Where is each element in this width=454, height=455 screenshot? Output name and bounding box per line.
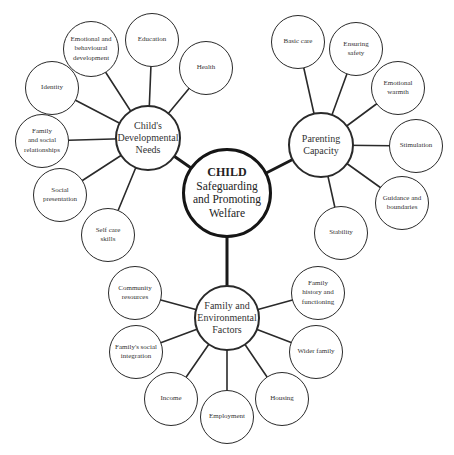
node-label: Social presentation — [43, 186, 77, 205]
node-housing: Housing — [255, 372, 309, 426]
node-label: Community resources — [118, 284, 151, 303]
node-income: Income — [144, 372, 198, 426]
node-basic-care: Basic care — [271, 15, 325, 69]
node-self-care-skills: Self care skills — [81, 208, 135, 262]
hub-developmental-needs: Child's Developmental Needs — [115, 105, 181, 171]
node-education: Education — [125, 13, 179, 67]
node-family-history-functioning: Family history and functioning — [291, 266, 345, 320]
core-subtitle: Safeguarding and Promoting Welfare — [193, 180, 261, 221]
hub-parenting-capacity: Parenting Capacity — [288, 112, 354, 178]
node-label: Self care skills — [96, 226, 121, 245]
core-node-child-safeguarding: CHILD Safeguarding and Promoting Welfare — [182, 148, 272, 238]
hub-family-environmental: Family and Environmental Factors — [194, 285, 260, 351]
node-label: Guidance and boundaries — [383, 194, 422, 213]
node-label: Emotional warmth — [383, 79, 412, 98]
node-label: Housing — [270, 394, 294, 404]
core-title: CHILD — [193, 166, 261, 180]
node-label: Income — [161, 394, 182, 404]
node-label: Wider family — [297, 347, 334, 357]
node-family-social-integration: Family's social integration — [109, 325, 163, 379]
node-ensuring-safety: Ensuring safety — [329, 22, 383, 76]
node-label: Family and social relationships — [24, 127, 60, 156]
node-label: Employment — [209, 412, 245, 422]
node-stability: Stability — [314, 206, 368, 260]
node-stimulation: Stimulation — [389, 119, 443, 173]
node-community-resources: Community resources — [108, 266, 162, 320]
node-social-presentation: Social presentation — [33, 168, 87, 222]
node-emotional-warmth: Emotional warmth — [371, 61, 425, 115]
node-wider-family: Wider family — [289, 325, 343, 379]
hub-developmental-label: Child's Developmental Needs — [117, 120, 178, 156]
node-label: Family history and functioning — [302, 279, 334, 308]
node-label: Family's social integration — [115, 343, 157, 362]
node-health: Health — [179, 41, 233, 95]
node-label: Emotional and behavioural development — [70, 35, 111, 64]
node-identity: Identity — [25, 61, 79, 115]
node-family-social-relationships: Family and social relationships — [15, 114, 69, 168]
hub-family-label: Family and Environmental Factors — [197, 300, 256, 336]
hub-parenting-label: Parenting Capacity — [302, 133, 340, 157]
node-label: Stability — [329, 228, 353, 238]
node-label: Basic care — [284, 37, 313, 47]
node-label: Identity — [41, 83, 63, 93]
node-label: Health — [197, 63, 216, 73]
node-label: Stimulation — [400, 141, 433, 151]
node-label: Education — [138, 35, 166, 45]
node-label: Ensuring safety — [343, 40, 368, 59]
node-guidance-boundaries: Guidance and boundaries — [375, 176, 429, 230]
node-employment: Employment — [200, 390, 254, 444]
